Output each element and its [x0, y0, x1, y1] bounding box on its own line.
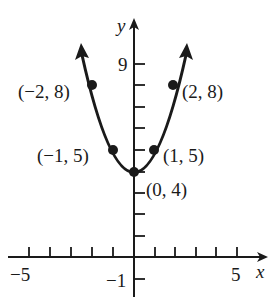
point-label-neg2-8: (−2, 8) — [18, 81, 70, 103]
x-tick-label-5: 5 — [231, 264, 241, 285]
x-axis-label: x — [255, 261, 265, 282]
point-label-1-5: (1, 5) — [163, 145, 204, 167]
point-label-0-4: (0, 4) — [146, 179, 187, 201]
y-tick-label-9: 9 — [118, 54, 128, 75]
y-axis-label: y — [115, 15, 126, 36]
point-label-neg1-5: (−1, 5) — [37, 145, 89, 167]
point-0-4 — [129, 167, 139, 177]
point-1-5 — [149, 145, 159, 155]
point-2-8 — [168, 80, 178, 90]
point-label-2-8: (2, 8) — [182, 81, 223, 103]
parabola-graph: y x 9 −1 −5 5 (−2, 8) (2, 8) (−1, 5) (1,… — [0, 0, 274, 297]
y-tick-label-neg1: −1 — [106, 270, 126, 291]
point-neg2-8 — [87, 80, 97, 90]
x-tick-label-neg5: −5 — [10, 264, 30, 285]
point-neg1-5 — [108, 145, 118, 155]
